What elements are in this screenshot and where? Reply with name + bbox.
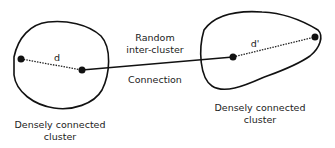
left-distance-label: d [54, 52, 60, 64]
left-cluster-caption-line2: cluster [44, 131, 76, 143]
right-cluster-caption-line2: cluster [244, 114, 276, 126]
right-intra-distance [233, 37, 315, 57]
right-cluster-caption-line1: Densely connected [214, 102, 305, 114]
connection-label-line2: inter-cluster [126, 44, 183, 56]
connection-label-line1: Random [135, 32, 174, 44]
left-node-outer [18, 56, 25, 63]
left-cluster-outline [14, 22, 109, 109]
right-cluster-outline [201, 12, 321, 90]
connection-label-line3: Connection [128, 74, 182, 86]
left-cluster-caption-line1: Densely connected [14, 119, 105, 131]
left-node-bridge [79, 67, 86, 74]
inter-cluster-connection [82, 57, 233, 70]
left-intra-distance [21, 59, 82, 70]
right-distance-label: d' [251, 38, 260, 50]
right-node-bridge [230, 54, 237, 61]
right-node-outer [312, 34, 319, 41]
diagram-canvas: d d' Random inter-cluster Connection Den… [0, 0, 335, 148]
